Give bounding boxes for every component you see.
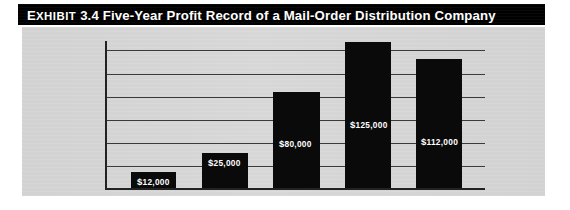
bar-label-amount-1: 12,000 xyxy=(142,177,169,187)
bar-label-year-3: $80,000 xyxy=(279,139,312,149)
exhibit-title-bar: EXHIBIT 3.4 Five-Year Profit Record of a… xyxy=(18,4,545,25)
exhibit-figure: EXHIBIT 3.4 Five-Year Profit Record of a… xyxy=(0,0,570,210)
bar-label-year-4: $125,000 xyxy=(350,120,388,130)
bar-year-5 xyxy=(416,59,462,188)
exhibit-number: 3.4 xyxy=(80,7,99,22)
bar-year-4 xyxy=(345,42,391,188)
y-axis-line xyxy=(105,41,107,189)
bar-label-year-5: $112,000 xyxy=(421,137,458,147)
bar-label-year-1: $12,000 xyxy=(137,177,170,187)
exhibit-title-text: EXHIBIT 3.4 Five-Year Profit Record of a… xyxy=(27,7,496,22)
bar-label-year-2: $25,000 xyxy=(208,158,241,168)
gridline-150000 xyxy=(105,50,485,51)
plot-area: $12,000 $25,000 $80,000 $125,000 $112,00… xyxy=(22,27,545,196)
exhibit-label-first-letter: E xyxy=(27,7,36,22)
bar-label-amount-2: 25,000 xyxy=(213,158,240,168)
bar-label-amount-3: 80,000 xyxy=(284,139,311,149)
exhibit-title: Five-Year Profit Record of a Mail-Order … xyxy=(103,7,496,22)
bar-label-amount-5: 112,000 xyxy=(426,137,458,147)
chart-panel: $12,000 $25,000 $80,000 $125,000 $112,00… xyxy=(22,27,545,196)
x-axis-line xyxy=(105,188,485,190)
bar-label-amount-4: 125,000 xyxy=(355,120,387,130)
exhibit-label-rest: XHIBIT xyxy=(36,9,76,21)
